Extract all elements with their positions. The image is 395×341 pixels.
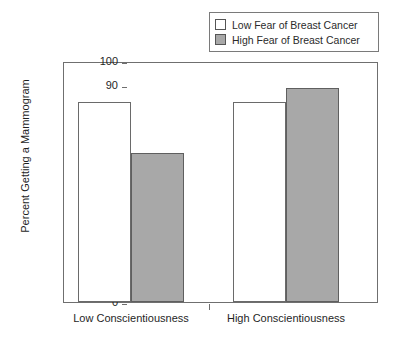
x-axis-label: High Conscientiousness (196, 312, 376, 324)
legend-item-high-fear: High Fear of Breast Cancer (215, 32, 373, 47)
legend-item-low-fear: Low Fear of Breast Cancer (215, 17, 373, 32)
bar (233, 102, 286, 302)
y-tick-line (122, 87, 127, 88)
legend-swatch-gray-icon (215, 34, 226, 45)
legend-swatch-white-icon (215, 19, 226, 30)
x-axis-label: Low Conscientiousness (41, 312, 221, 324)
legend-label-high-fear: High Fear of Breast Cancer (232, 34, 360, 46)
bar (286, 88, 339, 302)
y-tick-label: 90 (106, 79, 118, 91)
bar (131, 153, 184, 302)
bar-chart: Low Fear of Breast Cancer High Fear of B… (0, 0, 395, 341)
y-axis-title: Percent Getting a Mammogram (19, 51, 31, 261)
y-tick-line (122, 63, 127, 64)
plot-area: 0102030405060708090100 Low Conscientious… (63, 62, 378, 303)
legend-label-low-fear: Low Fear of Breast Cancer (232, 19, 357, 31)
y-tick-label: 100 (100, 55, 118, 67)
bar (78, 102, 131, 302)
chart-legend: Low Fear of Breast Cancer High Fear of B… (209, 12, 379, 52)
x-tick-center (209, 304, 210, 310)
y-tick-line (122, 304, 127, 305)
